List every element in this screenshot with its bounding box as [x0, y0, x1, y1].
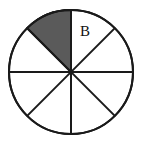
pie-figure: B [0, 0, 143, 146]
circle-diagram [0, 0, 143, 146]
sector-label-b: B [80, 24, 90, 39]
